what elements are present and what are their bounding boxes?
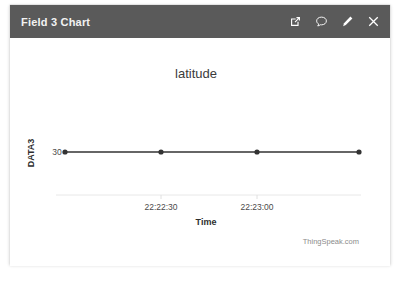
field-3-chart-card: Field 3 Chart	[9, 4, 391, 265]
x-axis-title: Time	[196, 217, 217, 227]
data-point-0[interactable]	[62, 149, 67, 154]
data-point-2[interactable]	[254, 149, 259, 154]
chart-plot-area[interactable]: latitude DATA3 30 22:22:30 22:23:00 Time	[10, 38, 390, 266]
card-header: Field 3 Chart	[10, 5, 390, 38]
close-icon[interactable]	[367, 15, 380, 28]
comment-icon[interactable]	[315, 15, 328, 28]
y-axis-title: DATA3	[26, 139, 36, 168]
y-tick-label-0: 30	[52, 147, 62, 157]
thingspeak-watermark: ThingSpeak.com	[303, 237, 359, 246]
header-actions	[289, 15, 380, 28]
pencil-icon[interactable]	[341, 15, 354, 28]
latitude-line-chart[interactable]: latitude DATA3 30 22:22:30 22:23:00 Time	[10, 38, 390, 266]
x-tick-label-1: 22:23:00	[240, 202, 273, 212]
chart-title: latitude	[175, 66, 217, 81]
data-point-3[interactable]	[356, 149, 361, 154]
card-title: Field 3 Chart	[21, 16, 90, 28]
x-tick-label-0: 22:22:30	[144, 202, 177, 212]
data-point-1[interactable]	[158, 149, 163, 154]
external-link-icon[interactable]	[289, 15, 302, 28]
